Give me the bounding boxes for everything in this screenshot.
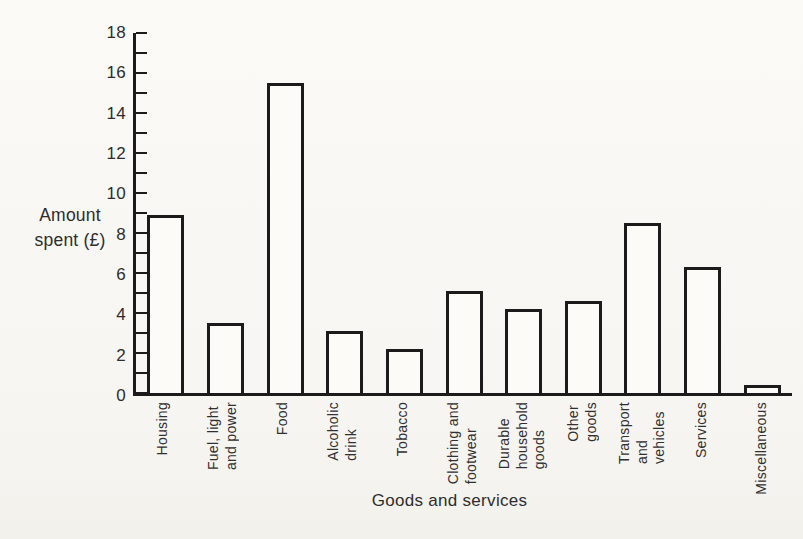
x-label-cell-food: Food: [253, 402, 313, 490]
x-label-other-goods: Other goods: [565, 402, 600, 442]
bar-clothing-and-footwear: [446, 291, 483, 393]
x-label-cell-clothing-and-footwear: Clothing and footwear: [433, 402, 493, 490]
x-label-cell-housing: Housing: [133, 402, 193, 490]
bars-container: [136, 33, 792, 393]
x-label-clothing-and-footwear: Clothing and footwear: [445, 402, 480, 484]
bar-slot-housing: [136, 33, 196, 393]
x-label-cell-durable-household-goods: Durable household goods: [492, 402, 552, 490]
y-tick-label-6: 6: [116, 265, 126, 285]
bar-slot-miscellaneous: [732, 33, 792, 393]
bar-slot-clothing-and-footwear: [434, 33, 494, 393]
x-axis-title: Goods and services: [120, 491, 779, 511]
x-label-services: Services: [693, 402, 711, 458]
x-label-cell-fuel-light-and-power: Fuel, light and power: [193, 402, 253, 490]
bar-alcoholic-drink: [326, 331, 363, 393]
x-label-cell-other-goods: Other goods: [552, 402, 612, 490]
y-tick-label-14: 14: [106, 104, 126, 124]
x-label-cell-miscellaneous: Miscellaneous: [732, 402, 792, 490]
x-category-labels: HousingFuel, light and powerFoodAlcoholi…: [133, 402, 792, 490]
x-label-tobacco: Tobacco: [394, 402, 412, 456]
x-label-transport-and-vehicles: Transport and vehicles: [616, 402, 669, 464]
y-tick-label-4: 4: [116, 305, 126, 325]
bar-slot-food: [255, 33, 315, 393]
bar-tobacco: [386, 349, 423, 393]
y-tick-label-10: 10: [106, 184, 126, 204]
x-label-miscellaneous: Miscellaneous: [753, 402, 771, 495]
bar-slot-services: [673, 33, 733, 393]
x-label-alcoholic-drink: Alcoholic drink: [325, 402, 360, 461]
plot-area: [133, 33, 792, 396]
y-tick-label-12: 12: [106, 144, 126, 164]
bar-durable-household-goods: [505, 309, 542, 393]
y-tick-label-16: 16: [106, 63, 126, 83]
bar-miscellaneous: [744, 385, 781, 393]
y-tick-label-0: 0: [116, 386, 126, 406]
bar-food: [267, 83, 304, 393]
bar-fuel-light-and-power: [207, 323, 244, 393]
bar-slot-tobacco: [375, 33, 435, 393]
bar-slot-fuel-light-and-power: [196, 33, 256, 393]
y-tick-label-8: 8: [116, 225, 126, 245]
bar-slot-durable-household-goods: [494, 33, 554, 393]
x-label-fuel-light-and-power: Fuel, light and power: [205, 402, 240, 470]
bar-transport-and-vehicles: [624, 223, 661, 393]
bar-other-goods: [565, 301, 602, 393]
x-label-cell-transport-and-vehicles: Transport and vehicles: [612, 402, 672, 490]
x-label-food: Food: [274, 402, 292, 435]
bar-slot-transport-and-vehicles: [613, 33, 673, 393]
x-label-housing: Housing: [154, 402, 172, 455]
y-tick-labels: 024681012141618: [84, 33, 126, 396]
bar-housing: [147, 215, 184, 393]
x-label-cell-alcoholic-drink: Alcoholic drink: [313, 402, 373, 490]
x-label-cell-tobacco: Tobacco: [373, 402, 433, 490]
expenditure-bar-chart-figure: Amount spent (£) 024681012141618 Housing…: [0, 0, 803, 539]
x-label-cell-services: Services: [672, 402, 732, 490]
y-tick-label-2: 2: [116, 346, 126, 366]
y-tick-label-18: 18: [106, 23, 126, 43]
bar-slot-other-goods: [553, 33, 613, 393]
bar-slot-alcoholic-drink: [315, 33, 375, 393]
bar-services: [684, 267, 721, 393]
x-label-durable-household-goods: Durable household goods: [496, 402, 549, 469]
